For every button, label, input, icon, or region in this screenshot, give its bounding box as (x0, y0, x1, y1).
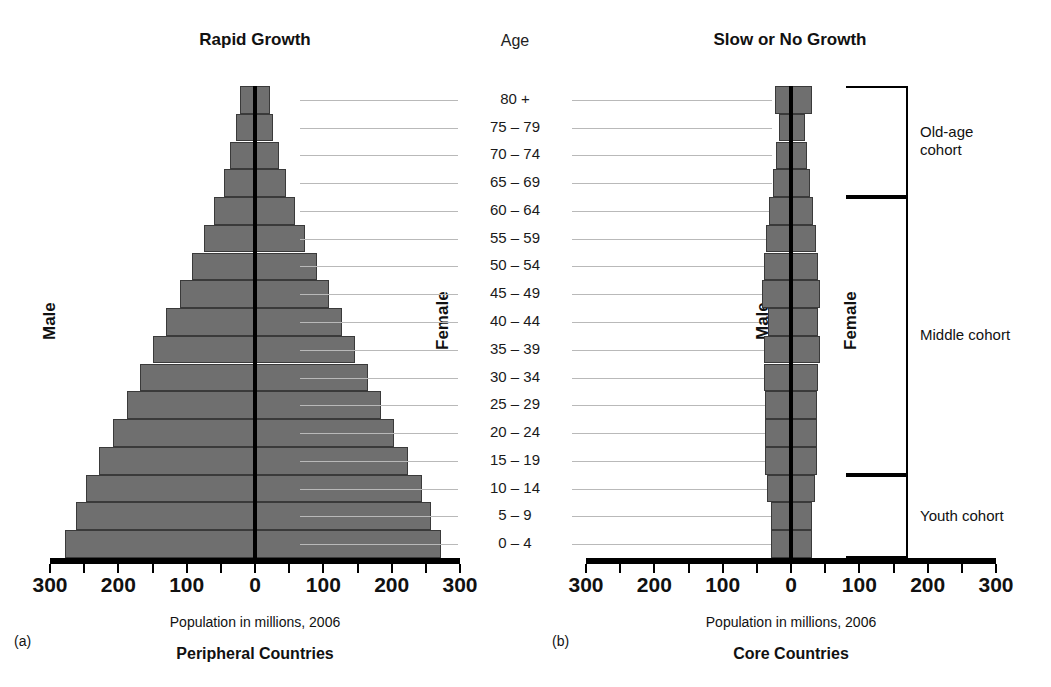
cohort-label: Middle cohort (920, 326, 1040, 345)
panel-a-center-axis (253, 86, 257, 562)
cohort-bracket (846, 475, 908, 558)
cohort-label: Youth cohort (920, 507, 1040, 526)
cohort-bracket (846, 86, 908, 197)
cohort-label: Old-age cohort (920, 123, 1040, 161)
cohort-bracket (846, 197, 908, 475)
cohort-brackets: Old-age cohortMiddle cohortYouth cohort (0, 0, 1051, 687)
panel-b-center-axis (789, 86, 793, 562)
